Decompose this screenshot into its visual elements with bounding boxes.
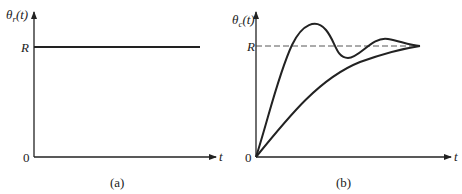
overdamped-response-curve <box>256 46 420 157</box>
panel-b: θc(t) R 0 t (b) <box>232 12 458 190</box>
caption-a: (a) <box>110 175 124 190</box>
panel-a: θr(t) R 0 t (a) <box>6 7 223 190</box>
level-label-a: R <box>20 40 29 55</box>
figure-canvas: θr(t) R 0 t (a) θc(t) R 0 t (b) <box>0 0 462 194</box>
origin-label-b: 0 <box>245 150 252 165</box>
x-axis-label-a: t <box>219 149 223 164</box>
level-label-b: R <box>246 39 255 54</box>
y-axis-label-b: θc(t) <box>232 12 255 29</box>
x-axis-label-b: t <box>454 149 458 164</box>
underdamped-response-curve <box>256 24 420 157</box>
caption-b: (b) <box>336 175 351 190</box>
y-axis-label-a: θr(t) <box>6 7 28 24</box>
origin-label-a: 0 <box>23 150 30 165</box>
